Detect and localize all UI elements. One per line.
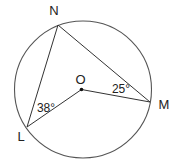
chord-nm (58, 25, 150, 102)
center-label-o: O (75, 72, 85, 87)
vertex-label-m: M (159, 97, 170, 112)
vertex-label-n: N (49, 3, 58, 18)
angle-label-m: 25° (112, 82, 130, 96)
circle-diagram: N L M O 38° 25° (0, 0, 178, 165)
diagram-canvas: N L M O 38° 25° (0, 0, 178, 165)
center-point-o (80, 88, 84, 92)
vertex-label-l: L (17, 129, 24, 144)
angle-label-l: 38° (37, 101, 55, 115)
